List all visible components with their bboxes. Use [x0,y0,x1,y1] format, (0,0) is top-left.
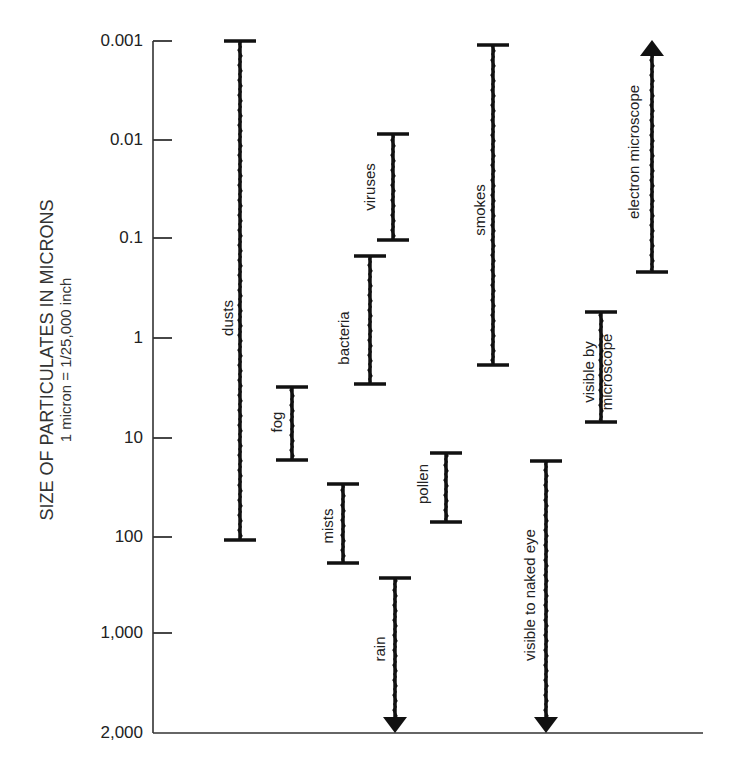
bar-label-pollen: pollen [414,464,432,504]
bar-label-visible-by-microscope: visible bymicroscope [580,334,616,411]
arrow-down-icon [383,717,407,733]
y-tick-label: 0.1 [119,228,143,248]
bar-label-line: visible to naked eye [521,529,539,661]
y-tick-label: 1,000 [100,623,143,643]
bar-label-line: dusts [219,300,237,336]
bar-label-smokes: smokes [471,184,489,236]
bar-label-bacteria: bacteria [335,311,353,364]
bar-label-visible-to-naked-eye: visible to naked eye [521,529,539,661]
y-axis-title-group: SIZE OF PARTICULATES IN MICRONS 1 micron… [37,165,75,555]
bar-label-dusts: dusts [219,300,237,336]
y-tick-label: 2,000 [100,723,143,743]
bar-label-rain: rain [371,636,389,661]
bar-label-line: fog [268,412,286,433]
bar-label-line: mists [319,509,337,544]
y-axis-title: SIZE OF PARTICULATES IN MICRONS [37,165,57,555]
bar-label-line: electron microscope [625,85,643,219]
bar-label-line: smokes [471,184,489,236]
bar-label-line: visible by [580,334,598,411]
arrow-down-icon [534,717,558,733]
bar-label-line: microscope [598,334,616,411]
bar-label-line: rain [371,636,389,661]
particle-size-chart: SIZE OF PARTICULATES IN MICRONS 1 micron… [0,0,733,773]
bar-label-line: viruses [361,163,379,211]
bar-label-line: pollen [414,464,432,504]
bar-label-viruses: viruses [361,163,379,211]
arrow-up-icon [640,40,664,56]
bar-label-fog: fog [268,412,286,433]
plot-area [0,0,733,773]
y-tick-label: 10 [124,428,143,448]
bar-label-line: bacteria [335,311,353,364]
y-tick-label: 0.01 [110,130,143,150]
range-bar-texture [290,387,293,459]
y-axis-subtitle: 1 micron = 1/25,000 inch [57,165,75,555]
y-tick-label: 100 [115,527,143,547]
y-tick-label: 1 [134,328,143,348]
bar-label-mists: mists [319,509,337,544]
bar-label-electron-microscope: electron microscope [625,85,643,219]
y-tick-label: 0.001 [100,31,143,51]
